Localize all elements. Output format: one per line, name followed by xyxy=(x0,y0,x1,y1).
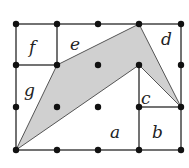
region-label-c: c xyxy=(141,88,151,108)
region-label-g: g xyxy=(24,80,35,100)
region-label-d: d xyxy=(161,29,172,49)
region-label-a: a xyxy=(110,122,120,142)
region-label-b: b xyxy=(152,122,163,142)
region-label-e: e xyxy=(70,34,80,54)
region-label-f: f xyxy=(27,37,38,57)
lattice-diagram: a b c d e f g xyxy=(0,0,189,168)
